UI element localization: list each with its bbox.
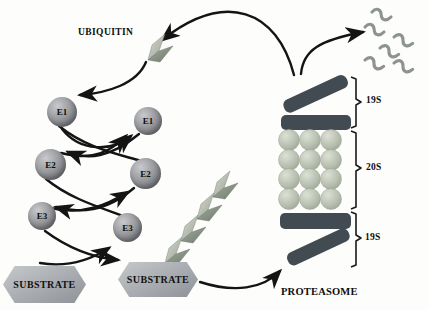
bracket-19s-bottom	[351, 212, 361, 267]
core-subunit	[300, 130, 321, 151]
core-subunit	[279, 189, 300, 210]
polyubiquitin-chain-icon	[165, 171, 238, 265]
peptide-squiggle	[393, 59, 414, 74]
proteasome-19s-bottom-cap	[280, 213, 352, 267]
core-subunit	[321, 150, 342, 171]
core-subunit	[300, 189, 321, 210]
arrow-e1-cycle	[62, 129, 131, 147]
core-subunit	[300, 150, 321, 171]
section-label-19s-top: 19S	[366, 95, 382, 105]
enzyme-e1-left: E1	[47, 97, 77, 127]
section-label-19s-bottom: 19S	[365, 232, 381, 242]
section-brackets	[351, 77, 361, 267]
diagram-artwork	[0, 0, 429, 310]
enzyme-e1-right: E1	[134, 107, 162, 135]
peptide-squiggle	[393, 33, 414, 48]
enzyme-e2-right: E2	[130, 158, 161, 189]
substrate-ubiquitinated: SUBSTRATE	[118, 262, 198, 297]
peptide-squiggle	[364, 23, 385, 37]
arrow-ubiquitin-to-e1	[80, 62, 146, 95]
proteasome-label: PROTEASOME	[281, 286, 358, 297]
cap-bar	[280, 213, 351, 229]
ubiquitin-proteasome-diagram: UBIQUITIN PROTEASOME 19S 20S 19S E1 E1 E…	[0, 0, 429, 310]
bracket-19s-top	[351, 77, 361, 128]
arrow-e3-to-substrate	[45, 231, 118, 260]
cap-arm	[285, 226, 352, 267]
arrow-ubiquitin-recycling	[162, 12, 294, 75]
ubiquitin-label: UBIQUITIN	[78, 27, 133, 37]
core-subunit	[321, 189, 342, 210]
core-subunit	[321, 169, 342, 190]
arrow-substrate-to-proteasome	[200, 271, 280, 288]
arrow-peptide-release	[301, 32, 363, 74]
peptide-squiggle	[364, 56, 385, 71]
enzyme-e2-left: E2	[35, 149, 66, 180]
ubiquitin-icon	[213, 171, 238, 199]
substrate-free: SUBSTRATE	[3, 266, 86, 303]
ubiquitin-icon	[148, 34, 173, 62]
cap-bar	[281, 115, 351, 130]
core-subunit	[279, 150, 300, 171]
peptide-squiggle	[379, 44, 400, 59]
bracket-20s	[351, 131, 361, 209]
proteasome-20s-core	[279, 130, 342, 210]
peptide-squiggle	[371, 8, 392, 22]
arrow-e2-e3-transfer	[46, 179, 126, 217]
enzyme-e3-left: E3	[28, 202, 56, 230]
core-subunit	[279, 169, 300, 190]
core-subunit	[279, 130, 300, 151]
proteasome-19s-top-cap	[281, 73, 351, 130]
core-subunit	[321, 130, 342, 151]
enzyme-e3-right: E3	[113, 213, 142, 242]
degraded-peptides-icon	[364, 8, 414, 74]
cap-arm	[281, 73, 350, 115]
section-label-20s: 20S	[366, 162, 382, 172]
core-subunit	[300, 169, 321, 190]
